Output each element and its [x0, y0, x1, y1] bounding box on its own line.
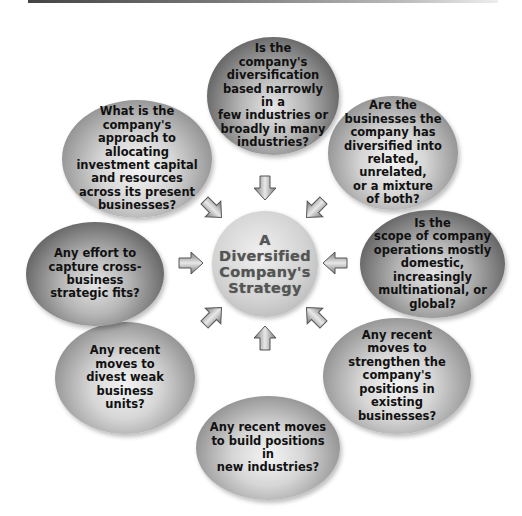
question-node-upper-left: What is the company's approach to alloca… — [62, 100, 212, 218]
arrow-down-icon — [252, 175, 278, 201]
top-divider-bar — [28, 0, 498, 3]
node-text: Are the businesses the company has diver… — [338, 99, 448, 206]
node-text: Is the scope of company operations mostl… — [374, 217, 491, 311]
arrow-left-icon — [322, 250, 348, 276]
arrow-up-icon — [252, 325, 278, 351]
arrow-right-icon — [178, 250, 204, 276]
question-node-bottom: Any recent moves to build positions in n… — [196, 396, 340, 500]
node-text: What is the company's approach to alloca… — [72, 105, 202, 212]
node-text: Any recent moves to divest weak business… — [86, 344, 164, 411]
question-node-top: Is the company's diversification based n… — [207, 37, 339, 155]
node-text: Any recent moves to build positions in n… — [206, 421, 330, 475]
question-node-left: Any effort to capture cross- business st… — [26, 222, 164, 326]
question-node-lower-right: Any recent moves to strengthen the compa… — [323, 318, 471, 434]
node-text: Any effort to capture cross- business st… — [49, 247, 142, 301]
center-title: A Diversified Company's Strategy — [219, 232, 311, 296]
arrow-up-left-icon — [302, 303, 328, 329]
arrow-down-right-icon — [200, 196, 226, 222]
center-strategy-circle: A Diversified Company's Strategy — [212, 211, 318, 317]
question-node-upper-right: Are the businesses the company has diver… — [328, 96, 458, 210]
arrow-down-left-icon — [302, 196, 328, 222]
question-node-right: Is the scope of company operations mostl… — [360, 210, 505, 318]
arrow-up-right-icon — [200, 303, 226, 329]
question-node-lower-left: Any recent moves to divest weak business… — [55, 322, 195, 434]
node-text: Any recent moves to strengthen the compa… — [348, 329, 445, 423]
node-text: Is the company's diversification based n… — [217, 42, 329, 149]
